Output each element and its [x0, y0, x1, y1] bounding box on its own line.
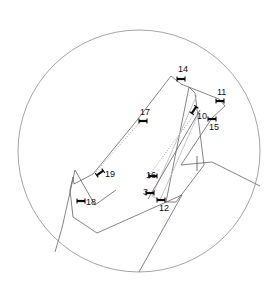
marker-label-12: 12: [159, 203, 169, 213]
marker-label-15: 15: [209, 122, 219, 132]
marker-label-19: 19: [105, 169, 115, 179]
sliver-right: [152, 110, 200, 200]
field-of-view-circle: [18, 30, 260, 272]
marker-18[interactable]: [77, 198, 85, 203]
marker-label-18: 18: [86, 197, 96, 207]
marker-label-14: 14: [178, 64, 188, 74]
inner-wedge-left: [166, 87, 189, 202]
marker-label-16: 16: [146, 170, 156, 180]
marker-bar: [97, 171, 104, 176]
faint-dotted-upper: [96, 122, 140, 172]
diagram-stage: 1411101517191631812: [0, 0, 279, 292]
marker-14[interactable]: [177, 76, 185, 81]
spine-line: [148, 110, 200, 199]
inner-wedge-right: [166, 93, 204, 202]
marker-label-3: 3: [143, 187, 148, 197]
marker-15[interactable]: [208, 116, 216, 121]
marker-label-11: 11: [217, 87, 226, 97]
diagram-canvas: 1411101517191631812: [0, 0, 279, 292]
marker-layer: 1411101517191631812: [77, 64, 226, 213]
lower-right-arm: [181, 162, 260, 186]
faint-dotted-lower: [147, 112, 196, 178]
outer-boundary-upper-left: [74, 76, 171, 184]
marker-bar: [192, 107, 197, 114]
marker-label-10: 10: [197, 111, 207, 121]
marker-label-17: 17: [140, 107, 150, 117]
marker-17[interactable]: [139, 118, 147, 123]
left-descender: [55, 228, 62, 252]
